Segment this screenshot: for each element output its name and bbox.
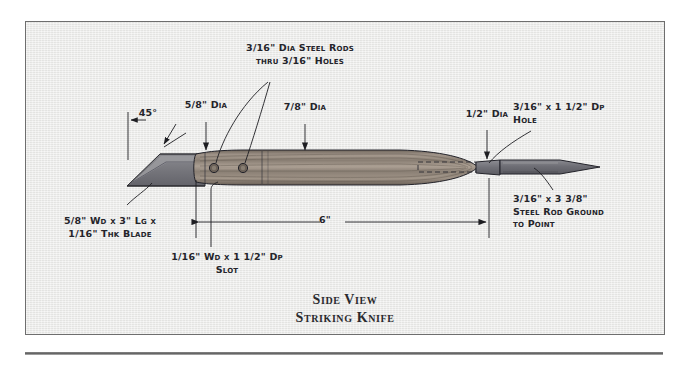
annotation-dia-1-2: 1/2" Dia — [457, 108, 517, 121]
annotation-45-degree: 45° — [118, 107, 178, 120]
annotation-dia-7-8: 7/8" Dia — [275, 101, 335, 114]
annotation-hole-right: 3/16" x 1 1/2" DpHole — [513, 101, 623, 126]
annotation-dia-5-8: 5/8" Dia — [176, 99, 236, 112]
annotation-steel-rod-ground: 3/16" x 3 3/8"Steel Rod Groundto Point — [513, 193, 618, 231]
annotation-dimension-6in: 6" — [305, 214, 345, 227]
panel-paper-texture — [26, 22, 664, 334]
annotation-blade-spec: 5/8" Wd x 3" Lg x1/16" Thk Blade — [45, 215, 175, 240]
annotation-slot-spec: 1/16" Wd x 1 1/2" DpSlot — [152, 251, 302, 276]
figure-title-line-1: Side View — [0, 292, 690, 308]
page-canvas: 45° 5/8" Dia 3/16" Dia Steel Rodsthru 3/… — [0, 0, 690, 372]
figure-title-line-2: Striking Knife — [0, 310, 690, 326]
annotation-rods-thru-holes-line1: 3/16" Dia Steel Rodsthru 3/16" Holes — [210, 42, 390, 67]
drawing-panel — [25, 21, 665, 335]
page-divider-rule — [25, 352, 663, 355]
